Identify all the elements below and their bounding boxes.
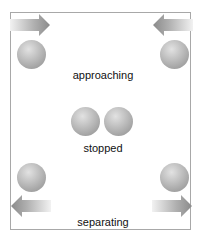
ball-approaching-left [17, 40, 46, 69]
arrow-left-icon [153, 14, 193, 36]
ball-approaching-right [160, 40, 189, 69]
ball-separating-right [160, 163, 189, 192]
label-separating: separating [0, 216, 206, 229]
arrow-right-icon [10, 14, 50, 36]
label-approaching: approaching [0, 69, 206, 82]
ball-separating-left [17, 163, 46, 192]
ball-stopped-left [71, 107, 100, 136]
arrow-right-icon [152, 195, 192, 217]
ball-stopped-right [104, 107, 133, 136]
label-stopped: stopped [0, 142, 206, 155]
arrow-left-icon [11, 195, 51, 217]
